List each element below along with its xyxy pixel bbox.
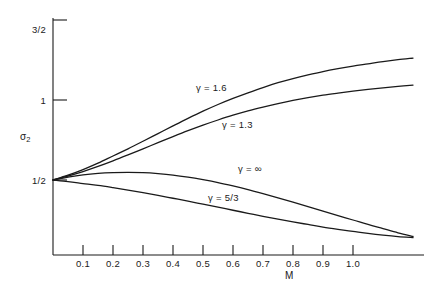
x-tick-label-7: 0.8 xyxy=(286,258,300,269)
curve-label-gamma-5-3: γ = 5/3 xyxy=(208,192,239,203)
x-tick-label-5: 0.6 xyxy=(226,258,240,269)
x-axis-title: M xyxy=(285,270,293,281)
x-tick-label-0: 0.1 xyxy=(76,258,90,269)
x-tick-label-3: 0.4 xyxy=(166,258,180,269)
x-tick-label-9: 1.0 xyxy=(346,258,360,269)
y-tick-label-1: 1 xyxy=(14,95,46,106)
x-tick-label-1: 0.2 xyxy=(106,258,120,269)
x-tick-label-8: 0.9 xyxy=(316,258,330,269)
x-tick-label-2: 0.3 xyxy=(136,258,150,269)
curve-3 xyxy=(53,180,413,238)
y-tick-marks xyxy=(53,20,67,180)
curve-1 xyxy=(53,85,413,180)
y-tick-label-1-2: 1/2 xyxy=(14,175,46,186)
x-tick-marks xyxy=(83,245,353,255)
axes-group xyxy=(53,18,424,255)
x-tick-label-4: 0.5 xyxy=(196,258,210,269)
x-tick-label-6: 0.7 xyxy=(256,258,270,269)
y-tick-label-3-2: 3/2 xyxy=(14,24,46,35)
curve-label-gamma-1-6: γ = 1.6 xyxy=(196,82,227,93)
data-curves xyxy=(53,58,413,238)
curve-label-gamma-infinity: γ = ∞ xyxy=(238,163,262,174)
chart-figure: 3/2 1 1/2 σ2 M γ = 1.6 γ = 1.3 γ = ∞ γ =… xyxy=(0,0,436,291)
plot-area xyxy=(0,0,436,291)
y-axis-title: σ2 xyxy=(20,131,30,142)
y-axis-title-text: σ2 xyxy=(20,131,30,142)
curve-2 xyxy=(53,172,413,236)
curve-label-gamma-1-3: γ = 1.3 xyxy=(222,119,253,130)
